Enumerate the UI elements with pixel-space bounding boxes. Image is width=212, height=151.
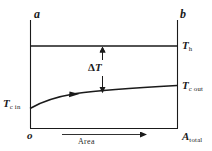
cold-inlet-subscript: c in [10, 103, 21, 110]
hot-temperature-subscript: h [189, 45, 193, 52]
cold-outlet-symbol: T [182, 79, 189, 91]
axis-label-a: a [34, 8, 40, 20]
axis-label-origin: o [27, 130, 33, 141]
delta-t-letter: T [95, 61, 102, 73]
x-axis-label: Area [78, 138, 95, 146]
hot-temperature-label: Th [182, 40, 192, 51]
axis-label-b: b [180, 8, 186, 20]
flow-direction-arrow-icon [69, 92, 80, 98]
heat-exchanger-temperature-profile-figure: a b o Th Tc out Tc in Atotal ΔT Area [0, 0, 212, 151]
delta-t-label: ΔT [88, 62, 102, 73]
cold-outlet-temperature-label: Tc out [182, 80, 203, 91]
total-area-subscript: total [189, 136, 202, 143]
total-area-label: Atotal [182, 131, 202, 142]
hot-temperature-symbol: T [182, 39, 189, 51]
delta-t-arrowhead-up-icon [100, 47, 106, 53]
delta-symbol: Δ [88, 61, 95, 73]
cold-inlet-symbol: T [3, 97, 10, 109]
cold-inlet-temperature-label: Tc in [3, 98, 21, 109]
cold-outlet-subscript: c out [189, 85, 203, 92]
